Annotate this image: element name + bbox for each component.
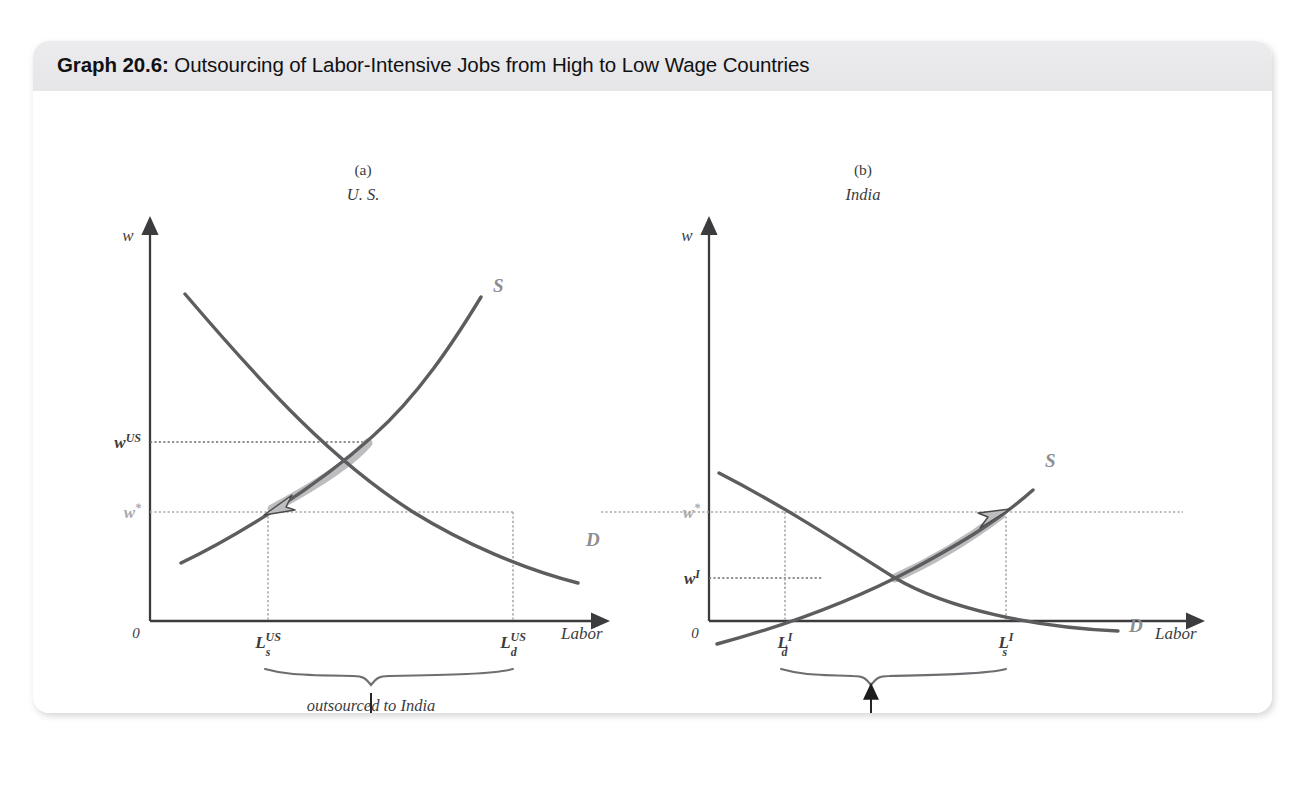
panel-b-y-tick-wage-star: w* bbox=[683, 501, 701, 522]
panel-b-letter: (b) bbox=[854, 161, 872, 179]
graph-canvas: (a) U. S. w Labor 0 bbox=[33, 91, 1272, 713]
panel-a-x-tick-labor-supplied: LUSs bbox=[254, 630, 281, 659]
panel-b-y-axis-label: w bbox=[681, 226, 693, 245]
panel-b-demand-label: D bbox=[1128, 615, 1143, 636]
panel-b-x-axis-label: Labor bbox=[1154, 624, 1197, 643]
panel-a-demand-curve bbox=[185, 294, 578, 583]
panel-a-x-axis-label: Labor bbox=[560, 624, 603, 643]
panel-a-supply-curve bbox=[181, 297, 481, 563]
page-title: Graph 20.6: Outsourcing of Labor-Intensi… bbox=[57, 53, 810, 77]
panel-b-x-tick-labor-supplied: LIs bbox=[997, 630, 1014, 659]
panel-b-x-tick-labor-demanded: LId bbox=[776, 630, 793, 659]
outsourcing-flow-connector bbox=[371, 693, 871, 713]
figure-plot-area: (a) U. S. w Labor 0 bbox=[33, 91, 1272, 713]
panel-b-country: India bbox=[845, 185, 881, 204]
panel-a-y-tick-wage-us: wUS bbox=[114, 431, 141, 452]
panel-a-origin-label: 0 bbox=[132, 625, 140, 641]
panel-a-y-tick-wage-star: w* bbox=[124, 501, 142, 522]
panel-a-y-axis-label: w bbox=[122, 226, 134, 245]
panel-india: (b) India w Labor 0 bbox=[601, 161, 1197, 685]
panel-us: (a) U. S. w Labor 0 bbox=[114, 161, 603, 713]
panel-a-brace bbox=[265, 669, 513, 685]
panel-a-supply-label: S bbox=[493, 275, 504, 296]
panel-a-x-tick-labor-demanded: LUSd bbox=[499, 630, 526, 659]
panel-b-demand-curve bbox=[719, 473, 1118, 631]
panel-b-origin-label: 0 bbox=[691, 625, 699, 641]
panel-b-brace bbox=[781, 669, 1006, 685]
outsourcing-flow-path bbox=[371, 693, 871, 713]
figure-card: Graph 20.6: Outsourcing of Labor-Intensi… bbox=[33, 41, 1272, 713]
panel-a-wage-change-arrowhead bbox=[264, 495, 295, 515]
panel-a-letter: (a) bbox=[354, 161, 371, 179]
panel-a-demand-label: D bbox=[585, 529, 600, 550]
panel-b-y-tick-wage-india: wI bbox=[684, 567, 701, 588]
panel-a-country: U. S. bbox=[347, 185, 380, 204]
panel-b-supply-label: S bbox=[1045, 450, 1056, 471]
figure-number: Graph 20.6: bbox=[57, 53, 169, 76]
figure-caption: Outsourcing of Labor-Intensive Jobs from… bbox=[169, 53, 810, 76]
